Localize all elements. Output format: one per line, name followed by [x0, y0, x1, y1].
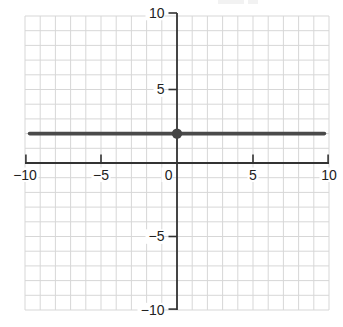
x-axis-label: 5	[249, 167, 257, 183]
y-axis-label: −10	[141, 302, 165, 318]
cropped-edge-artifact	[218, 0, 244, 4]
x-axis-label: −10	[13, 167, 37, 183]
y-axis-label: −5	[149, 228, 165, 244]
y-axis-label: 5	[157, 81, 165, 97]
y-axis-label: 10	[149, 5, 165, 21]
x-axis-label-0: 0	[165, 167, 173, 183]
x-axis-label: −5	[93, 167, 109, 183]
coordinate-plane-chart: −10−50510105−5−10	[0, 0, 343, 327]
graph-canvas: −10−50510105−5−10	[0, 0, 343, 327]
plotted-point	[172, 128, 182, 138]
cropped-edge-artifact	[248, 0, 258, 4]
x-axis-label: 10	[321, 167, 337, 183]
